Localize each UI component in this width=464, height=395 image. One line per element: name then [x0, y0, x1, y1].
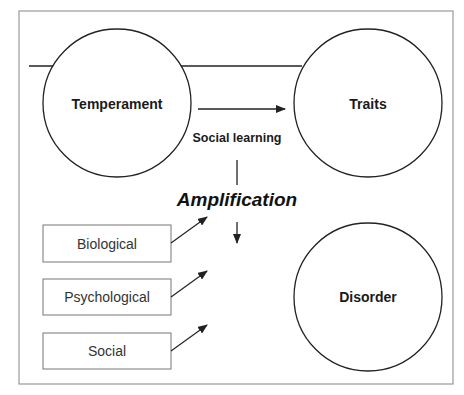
social-learning-label: Social learning: [193, 131, 282, 145]
temperament-label: Temperament: [72, 96, 163, 112]
traits-label: Traits: [349, 96, 387, 112]
social-arrow: [171, 325, 207, 351]
biological-arrow: [171, 217, 207, 243]
factor-label-psychological: Psychological: [64, 289, 150, 305]
disorder-label: Disorder: [339, 289, 397, 305]
factor-label-biological: Biological: [77, 236, 137, 252]
psychological-arrow: [171, 271, 207, 297]
factor-label-social: Social: [88, 343, 126, 359]
amplification-label: Amplification: [176, 189, 297, 210]
diagram-canvas: Temperament Traits Disorder Social learn…: [0, 0, 464, 395]
